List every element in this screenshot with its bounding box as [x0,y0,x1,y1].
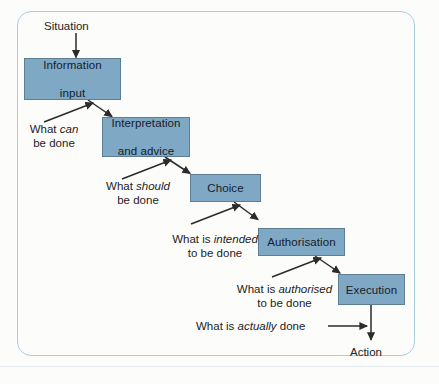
anno-2-line2: to be done [163,246,267,260]
node-choice-label: Choice [204,181,246,195]
diagram-canvas: Situation Information input Interpretati… [0,0,439,384]
node-choice[interactable]: Choice [190,174,261,202]
anno-3-lead: What is [237,283,279,295]
node-interpretation-and-advice[interactable]: Interpretation and advice [102,117,190,157]
node-execution-label: Execution [343,283,400,297]
node-execution[interactable]: Execution [338,274,405,305]
anno-2-lead: What is [172,233,214,245]
anno-3-line2: to be done [228,296,341,310]
anno-0-line2: be done [18,136,90,150]
node-interpretation-line2: and advice [108,144,183,158]
anno-1-line2: be done [95,193,181,207]
anno-4-emphasis: actually [238,320,277,332]
anno-4-lead: What is [196,320,238,332]
anno-3-emphasis: authorised [278,283,332,295]
anno-0-lead: What [30,123,60,135]
node-authorisation-label: Authorisation [264,235,338,249]
end-label-action: Action [350,345,382,359]
scan-edge-line [0,366,439,367]
node-information-input-line1: Information [40,58,105,72]
node-information-input[interactable]: Information input [24,58,121,100]
node-interpretation-line1: Interpretation [108,116,183,130]
annotation-what-can-be-done: What can be done [18,122,90,150]
anno-1-emphasis: should [136,180,170,192]
annotation-what-is-intended-to-be-done: What is intended to be done [163,232,267,260]
start-label-situation: Situation [44,19,89,33]
annotation-what-is-authorised-to-be-done: What is authorised to be done [228,282,341,310]
node-authorisation[interactable]: Authorisation [258,228,345,256]
anno-4-tail: done [277,320,306,332]
annotation-what-is-actually-done: What is actually done [196,319,305,333]
node-information-input-line2: input [40,86,105,100]
annotation-what-should-be-done: What should be done [95,179,181,207]
anno-0-emphasis: can [60,123,79,135]
anno-1-lead: What [106,180,136,192]
anno-2-emphasis: intended [214,233,258,245]
